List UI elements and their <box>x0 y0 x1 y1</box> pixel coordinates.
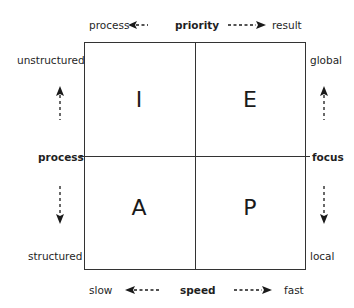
arrow-right-icon <box>228 20 266 30</box>
horizontal-divider <box>80 156 310 157</box>
quadrant-top-left: I <box>119 88 159 112</box>
top-left-label: process <box>89 19 129 31</box>
arrow-down-icon <box>319 186 329 224</box>
top-right-label: result <box>272 19 302 31</box>
arrow-left-icon <box>128 20 148 30</box>
right-bottom-label: local <box>310 250 334 262</box>
left-center-label: process <box>38 151 84 163</box>
bottom-left-label: slow <box>89 284 112 296</box>
arrow-left-icon <box>125 285 161 295</box>
bottom-center-label: speed <box>180 284 216 296</box>
right-center-label: focus <box>312 151 344 163</box>
left-top-label: unstructured <box>17 54 85 66</box>
arrow-up-icon <box>55 86 65 120</box>
quadrant-top-right: E <box>230 88 270 112</box>
arrow-down-icon <box>55 186 65 224</box>
quadrant-bottom-right: P <box>230 196 270 220</box>
left-bottom-label: structured <box>28 250 82 262</box>
right-top-label: global <box>310 54 342 66</box>
bottom-right-label: fast <box>284 284 304 296</box>
quadrant-bottom-left: A <box>119 196 159 220</box>
top-center-label: priority <box>175 19 219 31</box>
arrow-right-icon <box>234 285 272 295</box>
arrow-up-icon <box>319 86 329 120</box>
